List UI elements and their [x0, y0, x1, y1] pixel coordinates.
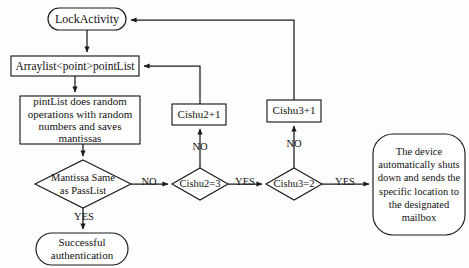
- edge-label-mantissa-no: NO: [136, 177, 162, 188]
- node-cishu3-decision-shape: [266, 168, 322, 200]
- edge-label-mantissa-yes: YES: [69, 212, 99, 223]
- flowchart-connectors: [0, 0, 469, 268]
- edge-label-cishu3-yes: YES: [330, 177, 360, 188]
- edge-label-cishu3-no: NO: [281, 139, 307, 150]
- node-lockactivity-shape: [48, 8, 126, 30]
- node-arraylist-shape: [11, 56, 139, 76]
- node-pintlist-shape: [20, 96, 140, 144]
- edge-label-cishu2-yes: YES: [230, 177, 260, 188]
- edge-label-cishu2-no: NO: [187, 142, 213, 153]
- edge-cishu2-increment-to-arraylist: [144, 66, 200, 104]
- node-cishu2-increment-shape: [172, 104, 226, 125]
- node-successful-auth-shape: [36, 233, 128, 265]
- node-cishu3-increment-shape: [267, 100, 321, 122]
- edge-cishu3-increment-to-lockactivity: [131, 20, 294, 100]
- flowchart-canvas: LockActivity Arraylist<point>pointList p…: [0, 0, 469, 268]
- node-mantissa-decision-shape: [35, 160, 131, 208]
- node-device-shutdown-shape: [373, 134, 465, 235]
- node-cishu2-decision-shape: [172, 168, 228, 200]
